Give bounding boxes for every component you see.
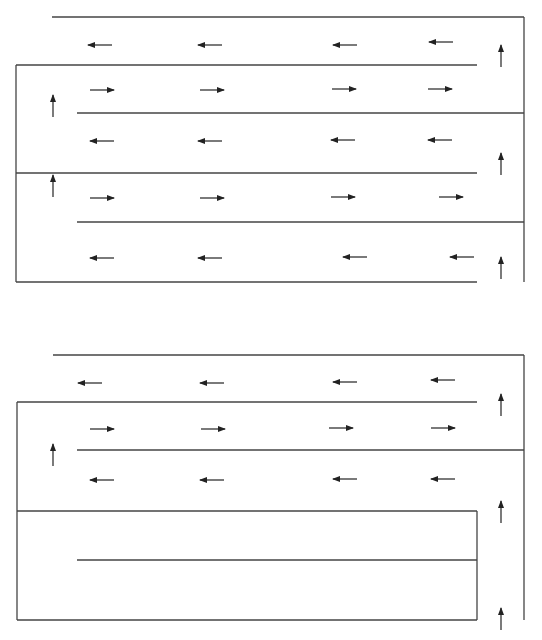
bottom-panel bbox=[17, 355, 524, 630]
serpentine-flow-diagram bbox=[0, 0, 542, 640]
top-panel bbox=[16, 17, 524, 282]
